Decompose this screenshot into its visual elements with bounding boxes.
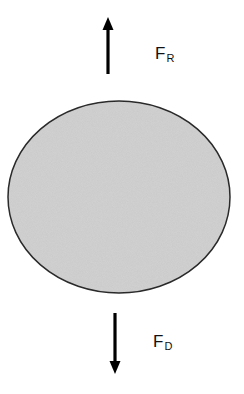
force-label-resistance: FR bbox=[155, 44, 174, 64]
force-label-drag: FD bbox=[153, 332, 172, 352]
force-symbol: F bbox=[155, 44, 165, 63]
force-arrow-up-icon bbox=[103, 17, 114, 74]
force-symbol: F bbox=[153, 332, 163, 351]
force-subscript: R bbox=[166, 52, 174, 64]
free-body-diagram bbox=[0, 0, 244, 394]
force-arrow-down-icon bbox=[110, 313, 121, 374]
force-subscript: D bbox=[164, 340, 172, 352]
body-ellipse bbox=[8, 101, 230, 293]
